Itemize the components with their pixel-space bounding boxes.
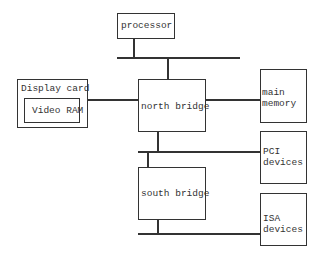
display-card-to-north-bridge-line	[88, 99, 138, 101]
processor-box: processor	[117, 13, 175, 39]
main-memory-label-line1: main	[262, 87, 285, 98]
north-bridge-to-pci-bus-line	[157, 132, 159, 152]
isa-devices-label-line1: ISA	[263, 213, 280, 224]
north-bridge-to-memory-line	[206, 99, 260, 101]
pci-devices-label-line2: devices	[263, 157, 303, 168]
isa-bus-line	[138, 233, 260, 235]
north-bridge-box: north bridge	[138, 79, 206, 132]
isa-devices-box: ISA devices	[260, 193, 307, 246]
isa-devices-label-line2: devices	[263, 224, 303, 235]
pci-bus-line	[138, 151, 260, 153]
main-memory-label-line2: memory	[262, 98, 296, 109]
pci-devices-label-line1: PCI	[263, 146, 280, 157]
processor-label: processor	[121, 20, 172, 31]
bus-to-north-bridge-line	[167, 58, 169, 79]
diagram-canvas: processor Display card Video RAM north b…	[0, 0, 324, 256]
south-bridge-box: south bridge	[138, 167, 206, 220]
pci-bus-to-south-bridge-line	[147, 152, 149, 167]
display-card-label: Display card	[21, 83, 89, 94]
processor-to-bus-line	[133, 39, 135, 58]
main-memory-box: main memory	[260, 69, 307, 123]
north-bridge-label: north bridge	[141, 101, 209, 112]
video-ram-label: Video RAM	[32, 105, 83, 116]
south-bridge-label: south bridge	[141, 188, 209, 199]
south-bridge-to-isa-bus-line	[157, 220, 159, 234]
pci-devices-box: PCI devices	[260, 131, 307, 184]
video-ram-box: Video RAM	[24, 98, 80, 123]
front-side-bus-line	[117, 57, 240, 59]
